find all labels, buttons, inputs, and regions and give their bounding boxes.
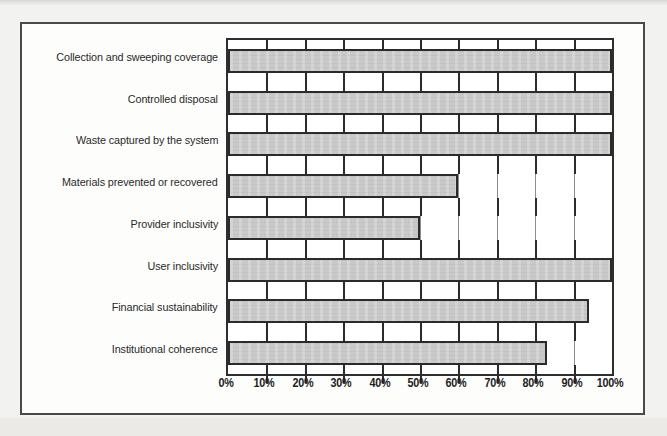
tickmark bbox=[343, 73, 345, 91]
category-axis-labels: Collection and sweeping coverageControll… bbox=[22, 38, 218, 372]
scan-artifact-top-band bbox=[0, 0, 667, 5]
tickmark bbox=[420, 73, 422, 91]
bar-row bbox=[228, 258, 612, 282]
tickmark bbox=[305, 115, 307, 133]
x-tick-label: 0% bbox=[218, 376, 233, 390]
tickmark bbox=[266, 73, 268, 91]
tickmark bbox=[458, 115, 460, 133]
category-label: Materials prevented or recovered bbox=[62, 176, 218, 188]
tick-gap-row bbox=[228, 323, 612, 341]
bar bbox=[228, 132, 612, 156]
tickmark bbox=[382, 240, 384, 258]
tickmark bbox=[343, 198, 345, 216]
tickmark bbox=[535, 73, 537, 91]
tickmark bbox=[343, 282, 345, 300]
tickmark bbox=[420, 198, 422, 216]
x-tick-label: 90% bbox=[561, 376, 582, 390]
bar-row bbox=[228, 216, 612, 240]
scan-artifact-bottom-band bbox=[0, 418, 667, 436]
tickmark bbox=[535, 156, 537, 174]
tickmark bbox=[420, 323, 422, 341]
tickmark bbox=[458, 240, 460, 258]
tickmark bbox=[343, 323, 345, 341]
tick-gap-row bbox=[228, 73, 612, 91]
tick-gap-row bbox=[228, 115, 612, 133]
tick-gap-row bbox=[228, 156, 612, 174]
plot-area bbox=[226, 38, 614, 376]
tickmark bbox=[305, 282, 307, 300]
tick-gap-row bbox=[228, 198, 612, 216]
x-tick-label: 50% bbox=[408, 376, 429, 390]
x-tick-label: 30% bbox=[331, 376, 352, 390]
tickmark bbox=[266, 115, 268, 133]
tickmark bbox=[382, 323, 384, 341]
tickmark bbox=[305, 240, 307, 258]
bar-row bbox=[228, 49, 612, 73]
figure-frame: Collection and sweeping coverageControll… bbox=[20, 22, 645, 415]
tickmark bbox=[497, 240, 499, 258]
tickmark bbox=[382, 73, 384, 91]
bar bbox=[228, 341, 547, 365]
bar-row bbox=[228, 174, 612, 198]
tick-gap-row bbox=[228, 282, 612, 300]
tickmark bbox=[266, 282, 268, 300]
tickmark bbox=[497, 198, 499, 216]
bar-row bbox=[228, 132, 612, 156]
tickmark bbox=[574, 323, 576, 341]
x-tick-label: 40% bbox=[369, 376, 390, 390]
bar bbox=[228, 258, 612, 282]
tickmark bbox=[497, 73, 499, 91]
tickmark bbox=[458, 282, 460, 300]
tickmark bbox=[420, 240, 422, 258]
tickmark bbox=[305, 198, 307, 216]
bar-row bbox=[228, 91, 612, 115]
bar-row bbox=[228, 341, 612, 365]
x-tick-label: 70% bbox=[484, 376, 505, 390]
tickmark bbox=[305, 156, 307, 174]
tickmark bbox=[574, 73, 576, 91]
category-label: Controlled disposal bbox=[128, 93, 218, 105]
tickmark bbox=[574, 198, 576, 216]
tickmark bbox=[266, 198, 268, 216]
tickmark bbox=[497, 115, 499, 133]
tickmark bbox=[497, 282, 499, 300]
category-label: Provider inclusivity bbox=[130, 218, 218, 230]
tickmark bbox=[535, 115, 537, 133]
tickmark bbox=[497, 156, 499, 174]
tickmark bbox=[305, 323, 307, 341]
tickmark bbox=[535, 240, 537, 258]
x-tick-label: 100% bbox=[597, 376, 624, 390]
tickmark bbox=[382, 282, 384, 300]
tickmark bbox=[305, 73, 307, 91]
bar bbox=[228, 91, 612, 115]
tickmark bbox=[574, 282, 576, 300]
x-tick-label: 60% bbox=[446, 376, 467, 390]
tickmark bbox=[458, 198, 460, 216]
x-tick-label: 10% bbox=[254, 376, 275, 390]
tickmark bbox=[574, 115, 576, 133]
bar bbox=[228, 216, 420, 240]
tickmark bbox=[266, 240, 268, 258]
tickmark bbox=[343, 156, 345, 174]
bar-chart: Collection and sweeping coverageControll… bbox=[22, 24, 643, 413]
tickmark bbox=[458, 323, 460, 341]
category-label: Collection and sweeping coverage bbox=[56, 51, 218, 63]
tickmark bbox=[266, 156, 268, 174]
tickmark bbox=[420, 156, 422, 174]
tickmark bbox=[535, 198, 537, 216]
category-label: Financial sustainability bbox=[112, 301, 218, 313]
x-axis-tick-labels: 0%10%20%30%40%50%60%70%80%90%100% bbox=[226, 376, 614, 398]
tickmark bbox=[382, 198, 384, 216]
tickmark bbox=[343, 115, 345, 133]
bar-row bbox=[228, 299, 612, 323]
tickmark bbox=[574, 156, 576, 174]
tickmark bbox=[266, 323, 268, 341]
tickmark bbox=[420, 115, 422, 133]
category-label: Institutional coherence bbox=[112, 343, 218, 355]
category-label: Waste captured by the system bbox=[76, 134, 218, 146]
bar bbox=[228, 49, 612, 73]
bar bbox=[228, 174, 458, 198]
category-label: User inclusivity bbox=[147, 260, 218, 272]
bar bbox=[228, 299, 589, 323]
tickmark bbox=[382, 156, 384, 174]
